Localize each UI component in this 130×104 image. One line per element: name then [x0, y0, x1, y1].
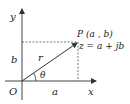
angle-label: θ: [40, 70, 46, 80]
point-label: P (a , b): [76, 29, 113, 39]
vertical-projection-label: b: [11, 54, 17, 65]
x-axis-label: x: [88, 86, 94, 97]
angle-arc: [34, 73, 37, 81]
y-axis-label: y: [9, 11, 16, 22]
vector-label: r: [38, 52, 44, 63]
horizontal-projection-label: a: [52, 86, 58, 97]
equation-label: z = a + jb: [78, 41, 124, 51]
origin-label: O: [9, 86, 17, 97]
vector-r: [22, 43, 77, 81]
complex-plane-diagram: y x O P (a , b) z = a + jb r θ a b: [0, 0, 130, 104]
